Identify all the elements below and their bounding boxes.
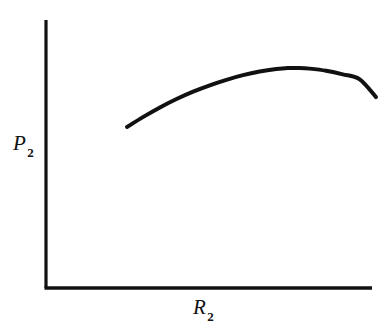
- y-axis-label-symbol: P: [13, 131, 26, 155]
- y-axis-label: P2: [13, 133, 33, 156]
- x-axis-label: R2: [193, 297, 213, 320]
- plot-area: [0, 0, 389, 328]
- y-axis-label-subscript: 2: [27, 145, 34, 160]
- data-curve-p2: [127, 68, 376, 127]
- figure-canvas: P2 R2: [0, 0, 389, 328]
- x-axis-label-symbol: R: [193, 295, 206, 319]
- x-axis-label-subscript: 2: [207, 309, 214, 324]
